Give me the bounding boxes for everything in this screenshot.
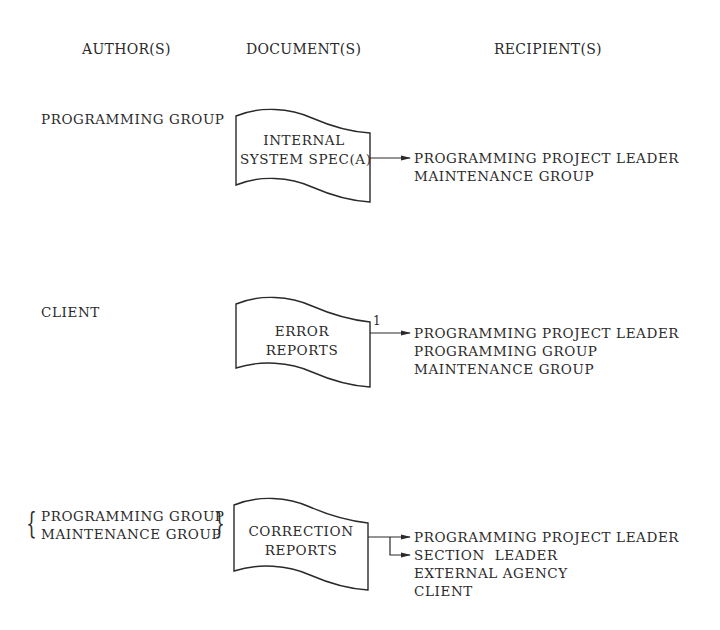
- recipient: PROGRAMMING PROJECT LEADER: [414, 528, 679, 546]
- document-label-row1: INTERNAL SYSTEM SPEC(A): [240, 131, 368, 169]
- recipient: EXTERNAL AGENCY: [414, 564, 679, 582]
- recipient-list-row2: PROGRAMMING PROJECT LEADER PROGRAMMING G…: [414, 324, 679, 378]
- author-list-row3: PROGRAMMING GROUP MAINTENANCE GROUP: [41, 507, 225, 543]
- recipient: PROGRAMMING PROJECT LEADER: [414, 324, 679, 342]
- recipient-list-row1: PROGRAMMING PROJECT LEADER MAINTENANCE G…: [414, 149, 679, 185]
- author: PROGRAMMING GROUP: [41, 507, 225, 525]
- connector-arrow-row3-branch: [390, 537, 410, 555]
- recipient: CLIENT: [414, 582, 679, 600]
- left-brace-icon: {: [26, 508, 37, 538]
- author-row2: CLIENT: [41, 303, 100, 321]
- recipient-list-row3: PROGRAMMING PROJECT LEADER SECTION LEADE…: [414, 528, 679, 600]
- recipient: PROGRAMMING PROJECT LEADER: [414, 149, 679, 167]
- right-brace-icon: }: [214, 508, 225, 538]
- document-title-line1: ERROR: [240, 322, 364, 341]
- document-title-line2: REPORTS: [238, 541, 364, 560]
- connector-label: 1: [373, 312, 381, 330]
- recipient: PROGRAMMING GROUP: [414, 342, 679, 360]
- recipient: SECTION LEADER: [414, 546, 679, 564]
- author-row1: PROGRAMMING GROUP: [41, 110, 225, 128]
- document-label-row2: ERROR REPORTS: [240, 322, 364, 360]
- document-title-line2: SYSTEM SPEC(A): [240, 150, 368, 169]
- author: MAINTENANCE GROUP: [41, 525, 225, 543]
- document-title-line2: REPORTS: [240, 341, 364, 360]
- recipient: MAINTENANCE GROUP: [414, 167, 679, 185]
- document-label-row3: CORRECTION REPORTS: [238, 522, 364, 560]
- recipient: MAINTENANCE GROUP: [414, 360, 679, 378]
- document-title-line1: INTERNAL: [240, 131, 368, 150]
- document-title-line1: CORRECTION: [238, 522, 364, 541]
